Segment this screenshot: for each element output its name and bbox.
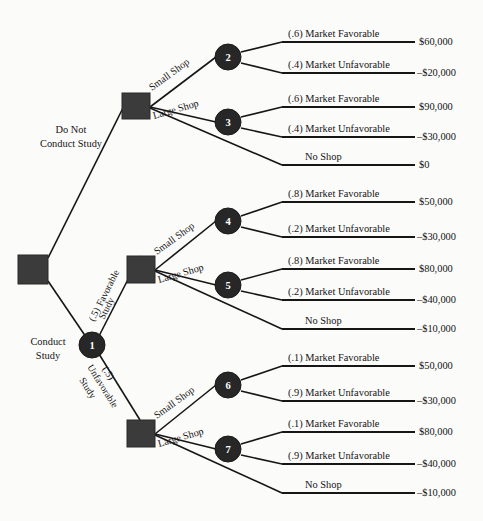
outcome-label-o9: (.2) Market Unfavorable — [288, 286, 390, 298]
root-label-no-study-line1: Do Not — [56, 124, 87, 135]
decision-square-favorable-study[interactable] — [127, 256, 155, 283]
small-shop-label-a: Small Shop — [147, 56, 192, 93]
decision-square-no-study[interactable] — [122, 93, 150, 119]
chance-node-4-label: 4 — [225, 216, 231, 227]
edge-node2-unfavorable — [241, 63, 282, 73]
edge-node5-favorable — [241, 269, 282, 280]
decision-square-unfavorable-study[interactable] — [127, 420, 155, 447]
outcome-label-o11: (.1) Market Favorable — [288, 352, 380, 364]
chance-node-2-label: 2 — [225, 52, 230, 63]
outcome-label-o1: (.6) Market Favorable — [288, 28, 380, 40]
chance-node-4[interactable]: 4 — [215, 208, 241, 234]
outcome-label-o5: No Shop — [305, 151, 342, 162]
chance-node-1[interactable]: 1 — [79, 332, 105, 358]
chance-node-3-label: 3 — [225, 117, 230, 128]
payoff-value-o4: –$30,000 — [416, 131, 456, 142]
small-shop-label-a-group: Small Shop — [147, 56, 192, 93]
payoff-value-o15: –$10,000 — [416, 487, 456, 498]
large-shop-label-b-group: Large Shop — [157, 261, 205, 285]
outcome-label-o10: No Shop — [305, 315, 342, 326]
payoff-value-o8: $80,000 — [419, 263, 453, 274]
payoff-value-o9: –$40,000 — [416, 294, 456, 305]
edge-node6-unfavorable — [241, 391, 282, 401]
decision-tree-canvas: 1 2 3 4 5 6 7 (.6) Market Favorable (.4)… — [0, 0, 483, 521]
payoff-value-o13: $80,000 — [419, 426, 453, 437]
payoff-value-o14: –$40,000 — [416, 458, 456, 469]
chance-node-2[interactable]: 2 — [215, 44, 241, 70]
edge-node7-favorable — [241, 432, 282, 444]
payoff-value-o7: –$30,000 — [416, 231, 456, 242]
chance-node-6-label: 6 — [225, 380, 230, 391]
chance-node-5[interactable]: 5 — [215, 272, 241, 298]
decision-tree-diagram: 1 2 3 4 5 6 7 (.6) Market Favorable (.4)… — [0, 0, 483, 521]
outcome-label-o4: (.4) Market Unfavorable — [288, 123, 390, 135]
payoff-value-o11: $50,000 — [419, 360, 453, 371]
chance-node-5-label: 5 — [225, 280, 230, 291]
payoff-value-o5: $0 — [419, 159, 429, 170]
edge-node6-favorable — [241, 366, 282, 380]
outcome-label-o15: No Shop — [305, 479, 342, 490]
chance-node-6[interactable]: 6 — [215, 372, 241, 398]
small-shop-label-b-group: Small Shop — [152, 220, 197, 257]
outcome-label-o8: (.8) Market Favorable — [288, 255, 380, 267]
root-label-conduct-line2: Study — [36, 350, 61, 361]
outcome-label-o13: (.1) Market Favorable — [288, 418, 380, 430]
root-label-no-study-line2: Conduct Study — [40, 138, 103, 149]
small-shop-label-c: Small Shop — [152, 384, 197, 421]
edge-root-to-conduct-study — [48, 281, 86, 337]
payoff-value-o10: –$10,000 — [416, 323, 456, 334]
edge-node4-unfavorable — [241, 227, 282, 237]
large-shop-label-c-group: Large Shop — [157, 425, 205, 449]
payoff-value-o2: –$20,000 — [416, 67, 456, 78]
outcome-label-o14: (.9) Market Unfavorable — [288, 450, 390, 462]
payoff-value-o3: $90,000 — [419, 101, 453, 112]
large-shop-label-b: Large Shop — [157, 261, 205, 285]
payoff-value-o6: $50,000 — [419, 196, 453, 207]
small-shop-label-c-group: Small Shop — [152, 384, 197, 421]
outcome-label-o7: (.2) Market Unfavorable — [288, 223, 390, 235]
chance-node-7-label: 7 — [225, 444, 230, 455]
outcome-label-o6: (.8) Market Favorable — [288, 188, 380, 200]
chance-node-1-label: 1 — [89, 340, 94, 351]
large-shop-label-c: Large Shop — [157, 425, 205, 449]
edge-node3-favorable — [241, 107, 282, 117]
outcome-label-o3: (.6) Market Favorable — [288, 93, 380, 105]
payoff-value-o12: –$30,000 — [416, 395, 456, 406]
root-label-conduct-line1: Conduct — [30, 336, 65, 347]
outcome-label-o2: (.4) Market Unfavorable — [288, 59, 390, 71]
payoff-value-o1: $60,000 — [419, 36, 453, 47]
chance-node-7[interactable]: 7 — [215, 436, 241, 462]
edge-node5-unfavorable — [241, 291, 282, 300]
edge-node7-unfavorable — [241, 455, 282, 464]
edge-node4-favorable — [241, 202, 282, 216]
chance-node-3[interactable]: 3 — [215, 109, 241, 135]
outcome-label-o12: (.9) Market Unfavorable — [288, 387, 390, 399]
edge-node3-unfavorable — [241, 128, 282, 137]
decision-square-root[interactable] — [18, 255, 48, 284]
small-shop-label-b: Small Shop — [152, 220, 197, 257]
edge-node2-favorable — [241, 42, 282, 52]
